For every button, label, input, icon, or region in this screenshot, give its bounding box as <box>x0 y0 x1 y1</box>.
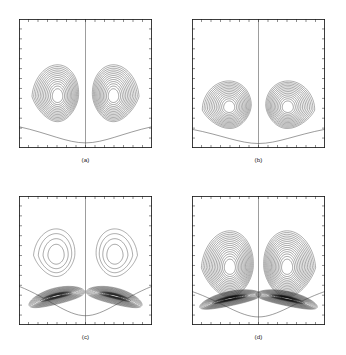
panel-a: (a) <box>19 19 152 166</box>
contour-plot-a <box>19 19 152 148</box>
contour-plot-c <box>19 196 152 325</box>
panel-caption-b: (b) <box>192 157 325 163</box>
contour-figure: (a) (b) (c) (d) <box>0 0 346 355</box>
contour-plot-b <box>192 19 325 148</box>
contour-canvas <box>19 196 152 325</box>
panel-caption-d: (d) <box>192 334 325 340</box>
panel-caption-a: (a) <box>19 157 152 163</box>
panel-c: (c) <box>19 196 152 343</box>
contour-canvas <box>192 196 325 325</box>
panel-d: (d) <box>192 196 325 343</box>
contour-plot-d <box>192 196 325 325</box>
panel-b: (b) <box>192 19 325 166</box>
contour-canvas <box>192 19 325 148</box>
panel-caption-c: (c) <box>19 334 152 340</box>
contour-canvas <box>19 19 152 148</box>
